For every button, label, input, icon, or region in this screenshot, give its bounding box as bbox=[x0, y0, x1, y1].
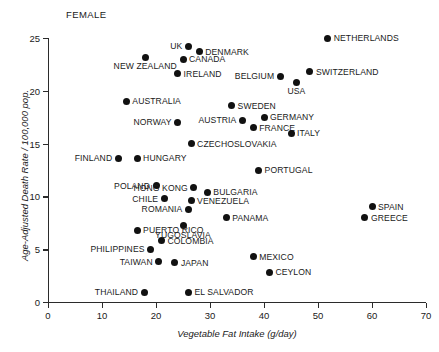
x-tick-label: 30 bbox=[205, 310, 216, 321]
data-point-label: CANADA bbox=[189, 54, 225, 64]
data-point-label: BELGIUM bbox=[235, 71, 274, 81]
data-point-label: PANAMA bbox=[232, 213, 268, 223]
data-point bbox=[293, 79, 300, 86]
data-point bbox=[180, 56, 187, 63]
data-point-label: SPAIN bbox=[378, 202, 404, 212]
data-point bbox=[261, 114, 268, 121]
data-point-label: NORWAY bbox=[133, 117, 171, 127]
x-tick bbox=[210, 303, 211, 308]
data-point-label: COLOMBIA bbox=[167, 236, 213, 246]
x-tick-label: 0 bbox=[45, 310, 50, 321]
data-point bbox=[155, 258, 162, 265]
x-tick bbox=[102, 303, 103, 308]
data-point-label: ROMANIA bbox=[142, 204, 183, 214]
data-point-label: JAPAN bbox=[181, 258, 209, 268]
data-point-label: GERMANY bbox=[270, 112, 314, 122]
data-point-label: PHILIPPINES bbox=[90, 244, 144, 254]
data-point bbox=[123, 98, 130, 105]
data-point-label: SWITZERLAND bbox=[316, 67, 379, 77]
data-point-label: NEW ZEALAND bbox=[114, 61, 177, 71]
y-tick bbox=[43, 38, 48, 39]
data-point bbox=[190, 184, 197, 191]
data-point bbox=[161, 195, 168, 202]
data-point bbox=[255, 167, 262, 174]
data-point bbox=[171, 259, 178, 266]
data-point bbox=[185, 206, 192, 213]
data-point-label: PUERTO RICO bbox=[143, 225, 203, 235]
data-point-label: NETHERLANDS bbox=[334, 33, 399, 43]
data-point-label: USA bbox=[287, 86, 305, 96]
data-point bbox=[324, 35, 331, 42]
data-point bbox=[134, 155, 141, 162]
data-point-label: THAILAND bbox=[95, 287, 138, 297]
data-point-label: PORTUGAL bbox=[265, 165, 313, 175]
x-tick-label: 40 bbox=[259, 310, 270, 321]
y-axis-title: Age-Adjusted Death Rate / 100,000 pop. bbox=[19, 66, 30, 286]
data-point bbox=[174, 119, 181, 126]
data-point-label: HUNGARY bbox=[143, 153, 187, 163]
data-point-label: CEYLON bbox=[275, 267, 311, 277]
panel-annotation-female: FEMALE bbox=[66, 9, 106, 20]
x-tick bbox=[318, 303, 319, 308]
data-point bbox=[288, 130, 295, 137]
data-point bbox=[228, 102, 235, 109]
data-point bbox=[266, 269, 273, 276]
data-point-label: AUSTRALIA bbox=[132, 96, 181, 106]
data-point bbox=[361, 214, 368, 221]
x-tick-label: 70 bbox=[421, 310, 432, 321]
data-point bbox=[158, 237, 165, 244]
data-point bbox=[188, 140, 195, 147]
data-point bbox=[115, 155, 122, 162]
chart-title-clipped bbox=[95, 0, 345, 1]
data-point-label: TAIWAN bbox=[120, 257, 153, 267]
data-point bbox=[250, 253, 257, 260]
x-tick-label: 10 bbox=[97, 310, 108, 321]
data-point-label: GREECE bbox=[371, 213, 408, 223]
data-point-label: IRELAND bbox=[184, 69, 222, 79]
y-tick-label: 0 bbox=[16, 297, 40, 308]
data-point bbox=[141, 289, 148, 296]
x-tick bbox=[426, 303, 427, 308]
y-tick bbox=[43, 249, 48, 250]
x-axis-line bbox=[48, 302, 426, 303]
data-point-label: FINLAND bbox=[75, 153, 112, 163]
x-tick bbox=[156, 303, 157, 308]
x-axis-title: Vegetable Fat Intake (g/day) bbox=[48, 328, 426, 339]
data-point bbox=[185, 43, 192, 50]
data-point-label: CZECHOSLOVAKIA bbox=[197, 139, 277, 149]
data-point bbox=[239, 117, 246, 124]
scatter-plot-figure: FEMALE 0510152025 010203040506070 NETHER… bbox=[0, 0, 439, 352]
x-tick-label: 50 bbox=[313, 310, 324, 321]
x-tick bbox=[48, 303, 49, 308]
data-point-label: EL SALVADOR bbox=[194, 287, 253, 297]
data-point bbox=[306, 68, 313, 75]
data-point bbox=[188, 197, 195, 204]
y-tick bbox=[43, 196, 48, 197]
y-axis-line bbox=[48, 38, 49, 303]
data-point bbox=[174, 70, 181, 77]
data-point-label: ITALY bbox=[297, 128, 320, 138]
data-point bbox=[277, 73, 284, 80]
y-tick-label: 25 bbox=[16, 33, 40, 44]
data-point bbox=[185, 289, 192, 296]
data-point bbox=[223, 214, 230, 221]
data-point-label: HONG KONG bbox=[133, 183, 187, 193]
data-point-label: UK bbox=[170, 41, 182, 51]
data-point bbox=[250, 124, 257, 131]
data-point-label: CHILE bbox=[132, 194, 158, 204]
y-tick bbox=[43, 91, 48, 92]
data-point bbox=[204, 189, 211, 196]
data-point-label: VENEZUELA bbox=[197, 196, 249, 206]
x-tick-label: 20 bbox=[151, 310, 162, 321]
data-point bbox=[142, 54, 149, 61]
data-point-label: AUSTRIA bbox=[198, 115, 236, 125]
x-tick bbox=[372, 303, 373, 308]
data-point bbox=[147, 246, 154, 253]
data-point-label: SWEDEN bbox=[238, 101, 276, 111]
data-point bbox=[134, 227, 141, 234]
x-tick-label: 60 bbox=[367, 310, 378, 321]
data-point-label: MEXICO bbox=[259, 252, 294, 262]
y-tick bbox=[43, 144, 48, 145]
data-point bbox=[369, 203, 376, 210]
x-tick bbox=[264, 303, 265, 308]
